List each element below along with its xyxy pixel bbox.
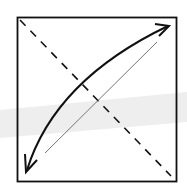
fold-arrow-curve xyxy=(27,26,168,170)
fold-diagram xyxy=(0,0,187,195)
valley-fold-dashed-line xyxy=(20,20,171,176)
diagonal-reference-line xyxy=(45,42,157,153)
